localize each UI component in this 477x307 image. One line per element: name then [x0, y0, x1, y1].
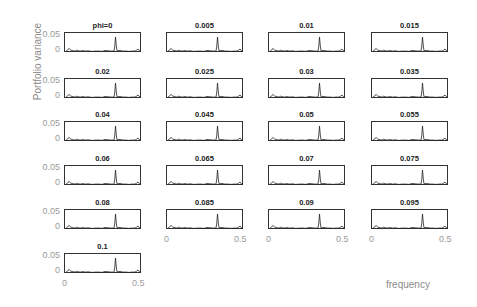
plot-area	[268, 78, 345, 98]
subplot-panel: 0.035	[371, 78, 448, 98]
subplot-panel: phi=0	[64, 32, 141, 52]
plot-area	[371, 165, 448, 185]
x-tick-label: 0	[369, 234, 374, 244]
panel-title: 0.055	[371, 110, 448, 119]
subplot-panel: 0.04	[64, 121, 141, 141]
y-tick-label: 0	[30, 44, 60, 54]
panel-title: 0.04	[64, 110, 141, 119]
panel-title: 0.025	[166, 67, 243, 76]
y-tick-label: 0.05	[30, 75, 60, 85]
panel-title: 0.075	[371, 154, 448, 163]
subplot-panel: 0.09	[268, 209, 345, 229]
x-axis-label: frequency	[386, 279, 430, 290]
spectrum-line	[372, 79, 449, 99]
y-tick-label: 0	[30, 177, 60, 187]
subplot-panel: 0.03	[268, 78, 345, 98]
plot-area	[64, 253, 141, 273]
subplot-panel: 0.025	[166, 78, 243, 98]
x-tick-label: 0	[62, 278, 67, 288]
panel-title: 0.035	[371, 67, 448, 76]
y-tick-label: 0.05	[30, 29, 60, 39]
panel-title: 0.005	[166, 21, 243, 30]
x-tick-label: 0.5	[336, 234, 349, 244]
spectrum-line	[372, 122, 449, 142]
spectrum-line	[372, 210, 449, 230]
panel-title: phi=0	[64, 21, 141, 30]
spectrum-line	[167, 33, 244, 53]
y-tick-label: 0.05	[30, 206, 60, 216]
spectrum-line	[167, 79, 244, 99]
y-tick-label: 0	[30, 265, 60, 275]
panel-title: 0.07	[268, 154, 345, 163]
subplot-panel: 0.02	[64, 78, 141, 98]
panel-title: 0.09	[268, 198, 345, 207]
panel-title: 0.02	[64, 67, 141, 76]
spectrum-line	[167, 210, 244, 230]
panel-title: 0.1	[64, 242, 141, 251]
subplot-panel: 0.08	[64, 209, 141, 229]
spectrum-line	[65, 166, 142, 186]
spectrum-line	[269, 166, 346, 186]
subplot-panel: 0.085	[166, 209, 243, 229]
panel-title: 0.085	[166, 198, 243, 207]
subplot-panel: 0.07	[268, 165, 345, 185]
plot-area	[268, 32, 345, 52]
spectrum-line	[167, 122, 244, 142]
plot-area	[268, 209, 345, 229]
plot-area	[64, 78, 141, 98]
subplot-panel: 0.06	[64, 165, 141, 185]
plot-area	[371, 121, 448, 141]
spectrum-line	[65, 122, 142, 142]
plot-area	[268, 121, 345, 141]
subplot-panel: 0.055	[371, 121, 448, 141]
plot-area	[371, 209, 448, 229]
subplot-panel: 0.01	[268, 32, 345, 52]
y-tick-label: 0	[30, 221, 60, 231]
plot-area	[64, 165, 141, 185]
plot-area	[166, 32, 243, 52]
panel-title: 0.065	[166, 154, 243, 163]
panel-title: 0.095	[371, 198, 448, 207]
subplot-panel: 0.065	[166, 165, 243, 185]
plot-area	[371, 78, 448, 98]
spectrum-line	[372, 166, 449, 186]
subplot-panel: 0.045	[166, 121, 243, 141]
plot-area	[166, 121, 243, 141]
x-tick-label: 0.5	[234, 234, 247, 244]
y-tick-label: 0	[30, 133, 60, 143]
spectrum-line	[65, 254, 142, 274]
x-tick-label: 0.5	[132, 278, 145, 288]
spectrum-line	[167, 166, 244, 186]
subplot-panel: 0.015	[371, 32, 448, 52]
panel-title: 0.06	[64, 154, 141, 163]
plot-area	[64, 32, 141, 52]
plot-area	[371, 32, 448, 52]
plot-area	[64, 209, 141, 229]
panel-title: 0.08	[64, 198, 141, 207]
plot-area	[64, 121, 141, 141]
subplot-panel: 0.05	[268, 121, 345, 141]
panel-title: 0.05	[268, 110, 345, 119]
spectrum-line	[65, 33, 142, 53]
panel-title: 0.03	[268, 67, 345, 76]
spectrum-line	[65, 79, 142, 99]
y-tick-label: 0	[30, 90, 60, 100]
panel-title: 0.01	[268, 21, 345, 30]
subplot-panel: 0.1	[64, 253, 141, 273]
x-tick-label: 0	[266, 234, 271, 244]
panel-title: 0.045	[166, 110, 243, 119]
subplot-panel: 0.005	[166, 32, 243, 52]
panel-title: 0.015	[371, 21, 448, 30]
x-tick-label: 0	[164, 234, 169, 244]
spectrum-line	[269, 79, 346, 99]
subplot-panel: 0.075	[371, 165, 448, 185]
spectrum-line	[269, 122, 346, 142]
spectrum-line	[372, 33, 449, 53]
subplot-panel: 0.095	[371, 209, 448, 229]
spectrum-line	[269, 210, 346, 230]
x-tick-label: 0.5	[439, 234, 452, 244]
y-tick-label: 0.05	[30, 250, 60, 260]
plot-area	[166, 209, 243, 229]
spectrum-line	[65, 210, 142, 230]
plot-area	[166, 165, 243, 185]
